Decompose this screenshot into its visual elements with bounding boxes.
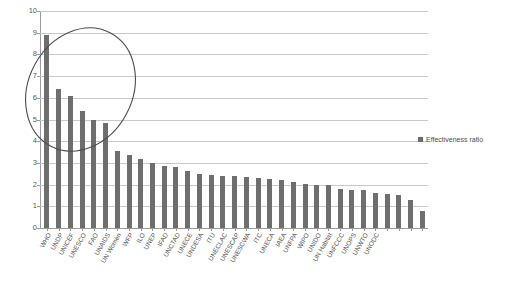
bar-slot bbox=[323, 11, 335, 228]
bar bbox=[68, 96, 73, 228]
bar bbox=[361, 190, 366, 228]
x-label-slot: UNDESA bbox=[194, 232, 206, 288]
bar bbox=[197, 174, 202, 228]
y-axis: 012345678910 bbox=[0, 11, 37, 228]
bar-slot bbox=[417, 11, 429, 228]
bar-slot bbox=[64, 11, 76, 228]
x-label-slot: WIPO bbox=[299, 232, 311, 288]
bar bbox=[349, 190, 354, 228]
x-tick-mark bbox=[129, 228, 130, 231]
bar-slot bbox=[182, 11, 194, 228]
bar bbox=[150, 163, 155, 228]
bar bbox=[408, 200, 413, 228]
bar-slot bbox=[111, 11, 123, 228]
x-label-slot: FAO bbox=[88, 232, 100, 288]
y-tick-label: 0 bbox=[3, 224, 37, 232]
x-tick-mark bbox=[47, 228, 48, 231]
x-tick-mark bbox=[117, 228, 118, 231]
bar-slot bbox=[334, 11, 346, 228]
bar-slot bbox=[381, 11, 393, 228]
x-tick-mark bbox=[258, 228, 259, 231]
bar-slot bbox=[76, 11, 88, 228]
bar-slot bbox=[53, 11, 65, 228]
y-tick-label: 9 bbox=[3, 29, 37, 37]
x-label-slot: IFAD bbox=[158, 232, 170, 288]
bar-slot bbox=[147, 11, 159, 228]
x-label-slot: UNOPS bbox=[346, 232, 358, 288]
bar-slot bbox=[346, 11, 358, 228]
bar-slot bbox=[123, 11, 135, 228]
x-tick-mark bbox=[94, 228, 95, 231]
bar bbox=[44, 35, 49, 228]
x-axis-label: WFP bbox=[122, 232, 135, 248]
x-tick-mark bbox=[211, 228, 212, 231]
bar bbox=[279, 180, 284, 228]
x-tick-mark bbox=[305, 228, 306, 231]
y-tick-label: 1 bbox=[3, 203, 37, 211]
bar bbox=[373, 193, 378, 228]
bar bbox=[127, 155, 132, 228]
bar bbox=[232, 176, 237, 228]
bar bbox=[103, 123, 108, 228]
bar-slot bbox=[405, 11, 417, 228]
x-label-slot bbox=[405, 232, 417, 288]
x-label-slot: UNECA bbox=[264, 232, 276, 288]
x-tick-mark bbox=[282, 228, 283, 231]
bar bbox=[220, 176, 225, 228]
bar bbox=[115, 151, 120, 228]
x-tick-mark bbox=[317, 228, 318, 231]
bar bbox=[209, 175, 214, 228]
bar bbox=[244, 177, 249, 228]
x-tick-mark bbox=[399, 228, 400, 231]
bar bbox=[80, 111, 85, 228]
x-label-slot bbox=[417, 232, 429, 288]
x-tick-mark bbox=[293, 228, 294, 231]
bar bbox=[138, 159, 143, 228]
x-axis-labels: WHOUNDPUNICEFUNESCOFAOUNAIDSUN WomenWFPI… bbox=[41, 232, 428, 288]
bar-series-effectiveness-ratio bbox=[41, 11, 428, 228]
x-tick-mark bbox=[328, 228, 329, 231]
x-tick-mark bbox=[82, 228, 83, 231]
bar bbox=[267, 179, 272, 228]
bar-slot bbox=[358, 11, 370, 228]
x-tick-mark bbox=[364, 228, 365, 231]
bar bbox=[162, 166, 167, 228]
bar bbox=[326, 185, 331, 228]
y-tick-label: 3 bbox=[3, 159, 37, 167]
x-label-slot: WFP bbox=[123, 232, 135, 288]
legend-label: Effectiveness ratio bbox=[426, 136, 483, 143]
bar-slot bbox=[88, 11, 100, 228]
bar bbox=[291, 182, 296, 228]
y-tick-label: 8 bbox=[3, 51, 37, 59]
bar bbox=[420, 211, 425, 228]
bar-slot bbox=[194, 11, 206, 228]
x-label-slot: UN Women bbox=[111, 232, 123, 288]
bar-slot bbox=[170, 11, 182, 228]
bar bbox=[396, 195, 401, 228]
bar bbox=[173, 167, 178, 228]
bar-slot bbox=[370, 11, 382, 228]
x-label-slot: WHO bbox=[41, 232, 53, 288]
bar-slot bbox=[264, 11, 276, 228]
bar-slot bbox=[276, 11, 288, 228]
x-label-slot: UNFPA bbox=[287, 232, 299, 288]
y-tick-label: 4 bbox=[3, 137, 37, 145]
x-tick-mark bbox=[70, 228, 71, 231]
bar-slot bbox=[287, 11, 299, 228]
x-tick-mark bbox=[411, 228, 412, 231]
x-tick-mark bbox=[422, 228, 423, 231]
x-tick-mark bbox=[235, 228, 236, 231]
y-tick-label: 10 bbox=[3, 7, 37, 15]
bar-chart: 012345678910 WHOUNDPUNICEFUNESCOFAOUNAID… bbox=[0, 0, 515, 290]
bar bbox=[185, 171, 190, 229]
bar-slot bbox=[100, 11, 112, 228]
x-tick-mark bbox=[176, 228, 177, 231]
legend-swatch bbox=[418, 137, 423, 142]
x-tick-mark bbox=[375, 228, 376, 231]
bar bbox=[338, 189, 343, 228]
y-tick-label: 6 bbox=[3, 94, 37, 102]
x-tick-mark bbox=[188, 228, 189, 231]
y-tick-label: 2 bbox=[3, 181, 37, 189]
bar bbox=[314, 185, 319, 228]
x-label-slot: UNCTAD bbox=[170, 232, 182, 288]
